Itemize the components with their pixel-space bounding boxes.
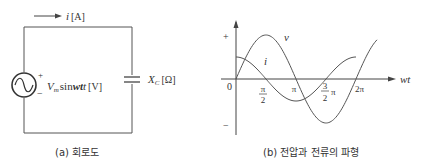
sine-symbol-icon <box>15 78 33 92</box>
svg-text:π: π <box>331 87 336 97</box>
y-axis-arrow-icon <box>234 20 239 28</box>
current-label: i <box>66 10 69 22</box>
svg-text:3: 3 <box>323 81 328 91</box>
source-plus: + <box>38 70 43 80</box>
y-plus-label: + <box>223 31 229 42</box>
capacitor-label: XC[Ω] <box>147 73 176 87</box>
svg-text:π: π <box>261 84 266 94</box>
waveform-chart: + − 0 wt v i π 2 π 3 2 π 2π (b) 전압과 전류의 … <box>221 20 411 158</box>
wire-top <box>24 27 132 75</box>
circuit-diagram: i [A] + − Vmsinwtt[V] XC[Ω] (a) 회로도 <box>12 10 176 158</box>
tick-label-2pi: 2π <box>355 84 365 94</box>
series-v-label: v <box>284 31 289 43</box>
y-minus-label: − <box>223 120 229 131</box>
svg-text:2: 2 <box>261 95 266 105</box>
figure-canvas: i [A] + − Vmsinwtt[V] XC[Ω] (a) 회로도 + − … <box>0 0 425 168</box>
waveform-caption: (b) 전압과 전류의 파형 <box>263 146 359 158</box>
tick-label-pi-over-2: π 2 <box>259 84 267 105</box>
source-minus: − <box>37 88 43 99</box>
svg-text:2: 2 <box>323 93 328 103</box>
current-unit: [A] <box>71 11 85 22</box>
source-voltage-label: Vmsinwtt[V] <box>47 80 102 94</box>
series-i-label: i <box>264 55 267 67</box>
origin-label: 0 <box>227 81 232 92</box>
tick-label-pi: π <box>292 84 297 94</box>
tick-label-3pi-over-2: 3 2 π <box>321 81 336 103</box>
x-axis-arrow-icon <box>388 77 396 82</box>
current-arrow-head <box>55 14 62 19</box>
x-axis-label: wt <box>400 73 411 85</box>
circuit-caption: (a) 회로도 <box>55 147 99 158</box>
